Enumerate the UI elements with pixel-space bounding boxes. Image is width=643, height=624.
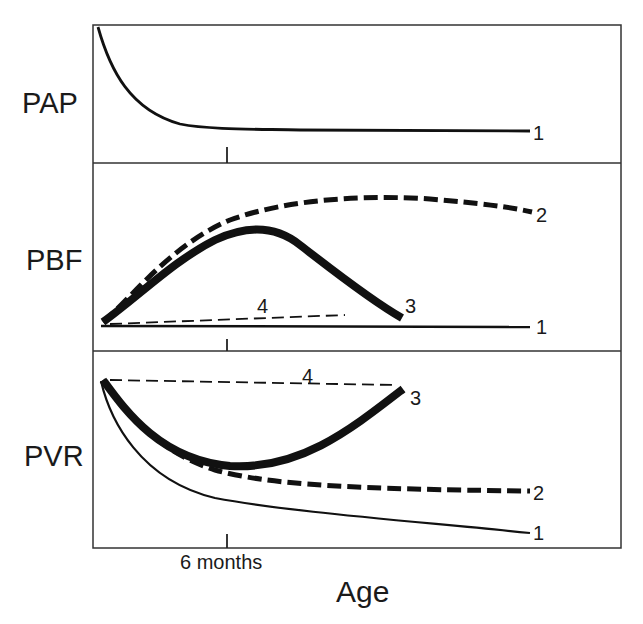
pbf-curve-label-2: 2 xyxy=(536,204,547,226)
pbf-curve-label-4: 4 xyxy=(257,295,268,317)
pbf-curve-label-1: 1 xyxy=(536,316,547,338)
pbf-panel: 4 3 2 1 xyxy=(101,197,547,338)
chart: PAP PBF PVR 1 4 3 2 1 4 3 2 1 6 months A… xyxy=(0,0,643,624)
pap-curve-1 xyxy=(98,27,530,131)
pvr-curve-1 xyxy=(101,381,530,533)
pvr-curve-label-2: 2 xyxy=(533,482,544,504)
panel-label-pvr: PVR xyxy=(24,440,84,472)
pvr-curve-label-1: 1 xyxy=(533,522,544,544)
pbf-curve-1 xyxy=(101,326,530,327)
pvr-curve-label-3: 3 xyxy=(410,387,421,409)
pvr-curve-4 xyxy=(110,380,395,385)
pvr-curve-2 xyxy=(103,380,530,491)
pvr-curve-label-4: 4 xyxy=(302,365,313,387)
pbf-curve-4 xyxy=(110,315,345,324)
panel-label-pap: PAP xyxy=(22,87,78,119)
pvr-panel: 4 3 2 1 xyxy=(101,365,544,544)
x-tick-label-6-months: 6 months xyxy=(180,551,262,573)
pap-curve-label-1: 1 xyxy=(533,122,544,144)
panel-label-pbf: PBF xyxy=(26,244,82,276)
x-axis-title: Age xyxy=(336,575,389,608)
pvr-curve-3 xyxy=(103,380,403,466)
pbf-curve-label-3: 3 xyxy=(405,295,416,317)
pap-panel: 1 xyxy=(98,27,544,144)
